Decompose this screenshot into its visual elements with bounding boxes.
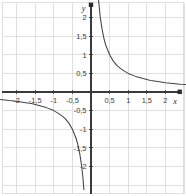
x-axis-name-label: x xyxy=(172,97,177,106)
coordinate-plot: -2-1,5-1-0,50,511,52 21,510,5-0,5-1-1,5-… xyxy=(0,0,186,196)
graph-figure: -2-1,5-1-0,50,511,52 21,510,5-0,5-1-1,5-… xyxy=(0,0,186,196)
x-tick-label: -0,5 xyxy=(66,96,79,105)
x-tick-label: 2 xyxy=(163,96,167,105)
y-tick-label: 1 xyxy=(82,51,86,60)
y-tick-label: 0,5 xyxy=(76,69,86,78)
x-tick-label: -2 xyxy=(13,96,20,105)
y-tick-label: -0,5 xyxy=(74,106,87,115)
y-axis-arrow-icon xyxy=(89,3,93,7)
y-tick-label: 1,5 xyxy=(76,32,86,41)
x-tick-label: -1 xyxy=(51,96,58,105)
x-tick-label: 0,5 xyxy=(104,96,114,105)
y-axis-name-label: y xyxy=(81,4,86,13)
y-tick-label: 2 xyxy=(82,13,86,22)
x-tick-label: 1 xyxy=(126,96,130,105)
x-tick-label: 1,5 xyxy=(142,96,152,105)
x-tick-label: -1,5 xyxy=(29,96,42,105)
y-tick-label: -2 xyxy=(80,162,87,171)
y-tick-label: -1 xyxy=(80,125,87,134)
y-tick-label: -1,5 xyxy=(74,144,87,153)
x-axis-arrow-icon xyxy=(178,90,182,94)
